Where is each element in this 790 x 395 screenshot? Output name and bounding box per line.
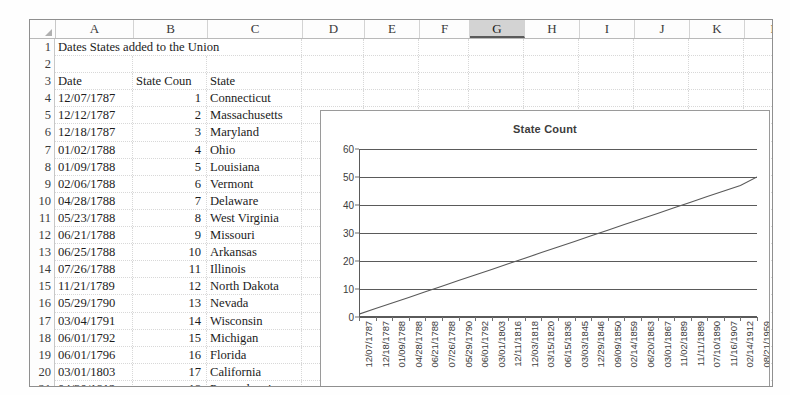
column-header-j[interactable]: J xyxy=(635,20,690,38)
cell-state-count[interactable]: 10 xyxy=(133,244,207,260)
column-header-c[interactable]: C xyxy=(208,20,303,38)
column-header-l[interactable]: L xyxy=(745,20,773,38)
cell-state-name[interactable]: Pennsylvania xyxy=(207,381,302,386)
cell-state-name[interactable]: Massachusetts xyxy=(207,107,302,123)
cell[interactable] xyxy=(302,39,364,55)
cell[interactable] xyxy=(419,39,469,55)
cell-state-count[interactable]: 1 xyxy=(133,90,207,106)
cell[interactable] xyxy=(579,90,634,106)
cell-date[interactable]: 12/18/1787 xyxy=(55,124,133,140)
cell-state-name[interactable]: West Virginia xyxy=(207,210,302,226)
cell-state-count[interactable]: 3 xyxy=(133,124,207,140)
state-count-chart[interactable]: State Count 0102030405060 12/07/178712/1… xyxy=(320,110,770,387)
cell-state-count[interactable]: 12 xyxy=(133,278,207,294)
cell[interactable] xyxy=(634,56,689,72)
cell-a1-title[interactable]: Dates States added to the Union xyxy=(55,39,133,55)
column-header-g[interactable]: G xyxy=(470,20,525,38)
cell-date[interactable]: 06/21/1788 xyxy=(55,227,133,243)
cell[interactable] xyxy=(55,56,133,72)
row-header-14[interactable]: 14 xyxy=(30,261,54,278)
cell[interactable] xyxy=(469,90,524,106)
cell-state-count[interactable]: 8 xyxy=(133,210,207,226)
cell-state-count[interactable]: 13 xyxy=(133,295,207,311)
column-header-k[interactable]: K xyxy=(690,20,745,38)
cell[interactable] xyxy=(364,56,419,72)
cell-date[interactable]: 06/01/1796 xyxy=(55,347,133,363)
cell-a3-header-date[interactable]: Date xyxy=(55,73,133,89)
cell[interactable] xyxy=(634,39,689,55)
cell[interactable] xyxy=(469,56,524,72)
cell-date[interactable]: 01/09/1788 xyxy=(55,159,133,175)
row-header-3[interactable]: 3 xyxy=(30,73,54,90)
row-header-11[interactable]: 11 xyxy=(30,210,54,227)
cell[interactable] xyxy=(133,56,207,72)
cell[interactable] xyxy=(524,56,579,72)
cell[interactable] xyxy=(302,73,364,89)
cell-state-name[interactable]: Arkansas xyxy=(207,244,302,260)
cell[interactable] xyxy=(744,90,772,106)
row-header-9[interactable]: 9 xyxy=(30,176,54,193)
column-header-d[interactable]: D xyxy=(303,20,365,38)
row-header-17[interactable]: 17 xyxy=(30,313,54,330)
cell-b3-header-state-count[interactable]: State Coun xyxy=(133,73,207,89)
cell-date[interactable]: 03/04/1791 xyxy=(55,313,133,329)
cell[interactable] xyxy=(419,90,469,106)
cell-state-name[interactable]: Michigan xyxy=(207,330,302,346)
row-header-16[interactable]: 16 xyxy=(30,295,54,312)
cell[interactable] xyxy=(524,73,579,89)
column-header-f[interactable]: F xyxy=(420,20,470,38)
cell[interactable] xyxy=(524,39,579,55)
cell-c3-header-state[interactable]: State xyxy=(207,73,302,89)
cell-date[interactable]: 06/25/1788 xyxy=(55,244,133,260)
cell-state-count[interactable]: 6 xyxy=(133,176,207,192)
cell[interactable] xyxy=(689,73,744,89)
cell[interactable] xyxy=(364,39,419,55)
cell-date[interactable]: 04/30/1812 xyxy=(55,381,133,386)
cell-state-name[interactable]: Florida xyxy=(207,347,302,363)
cell-date[interactable]: 05/23/1788 xyxy=(55,210,133,226)
row-header-2[interactable]: 2 xyxy=(30,56,54,73)
cell-state-name[interactable]: Louisiana xyxy=(207,159,302,175)
cell-state-name[interactable]: Illinois xyxy=(207,261,302,277)
row-header-21[interactable]: 21 xyxy=(30,381,54,387)
cell[interactable] xyxy=(207,39,302,55)
cell[interactable] xyxy=(579,73,634,89)
row-header-18[interactable]: 18 xyxy=(30,330,54,347)
cell[interactable] xyxy=(744,73,772,89)
cell[interactable] xyxy=(207,56,302,72)
cell-state-name[interactable]: Nevada xyxy=(207,295,302,311)
cell-state-count[interactable]: 7 xyxy=(133,193,207,209)
cell-date[interactable]: 12/12/1787 xyxy=(55,107,133,123)
cell[interactable] xyxy=(364,73,419,89)
column-header-b[interactable]: B xyxy=(134,20,208,38)
cell[interactable] xyxy=(469,39,524,55)
cell-state-count[interactable]: 4 xyxy=(133,142,207,158)
cell-state-name[interactable]: Vermont xyxy=(207,176,302,192)
row-header-13[interactable]: 13 xyxy=(30,244,54,261)
row-header-12[interactable]: 12 xyxy=(30,227,54,244)
cell-date[interactable]: 07/26/1788 xyxy=(55,261,133,277)
cell[interactable] xyxy=(302,56,364,72)
cell-state-count[interactable]: 2 xyxy=(133,107,207,123)
column-header-a[interactable]: A xyxy=(56,20,134,38)
cell[interactable] xyxy=(302,90,364,106)
cell[interactable] xyxy=(689,56,744,72)
cell-date[interactable]: 04/28/1788 xyxy=(55,193,133,209)
cell-state-name[interactable]: Delaware xyxy=(207,193,302,209)
cell[interactable] xyxy=(419,56,469,72)
cell-state-count[interactable]: 16 xyxy=(133,347,207,363)
row-header-19[interactable]: 19 xyxy=(30,347,54,364)
cell[interactable] xyxy=(744,56,772,72)
cell-state-count[interactable]: 17 xyxy=(133,364,207,380)
cell[interactable] xyxy=(579,39,634,55)
cell-state-count[interactable]: 5 xyxy=(133,159,207,175)
cell-state-name[interactable]: Maryland xyxy=(207,124,302,140)
column-header-h[interactable]: H xyxy=(525,20,580,38)
row-header-5[interactable]: 5 xyxy=(30,107,54,124)
cell[interactable] xyxy=(419,73,469,89)
cell-state-name[interactable]: Connecticut xyxy=(207,90,302,106)
cell[interactable] xyxy=(689,39,744,55)
table-row[interactable]: 12/07/17871Connecticut xyxy=(55,90,772,107)
cell[interactable] xyxy=(364,90,419,106)
select-all-button[interactable] xyxy=(30,20,56,38)
